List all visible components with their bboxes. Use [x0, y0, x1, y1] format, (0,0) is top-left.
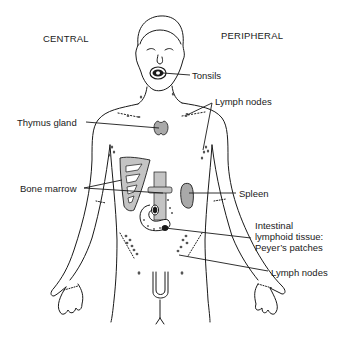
peripheral-header: PERIPHERAL: [221, 30, 283, 41]
lymphoid-organs-diagram: CENTRAL PERIPHERAL Tonsils Lymph nodes T…: [0, 0, 351, 339]
intestinal-label-line2: lymphoid tissue:: [255, 231, 323, 242]
intestinal-label-line1: Intestinal: [255, 220, 293, 231]
right-elbow-crease: [214, 199, 226, 201]
nose: [157, 55, 162, 64]
hair-line: [140, 30, 181, 44]
central-header: CENTRAL: [43, 33, 89, 44]
right-shoulder-arm: [182, 103, 285, 294]
groin-dots-right: [188, 233, 202, 256]
head-outline: [136, 16, 185, 91]
body-figure: [0, 0, 351, 339]
lymph-nodes-lower-label: Lymph nodes: [271, 267, 328, 278]
lymph-lower-leader: [179, 255, 268, 271]
lymph-upper-leader-b: [203, 103, 212, 150]
genital-inner: [156, 272, 165, 295]
intestinal-leader: [165, 228, 251, 238]
left-eye: [147, 49, 155, 51]
left-torso-side: [110, 145, 117, 322]
intestinal-label-line3: Peyer’s patches: [255, 242, 323, 253]
lymph-nodes-upper-label: Lymph nodes: [215, 96, 272, 107]
left-inner-arm: [70, 145, 110, 280]
right-inner-arm: [212, 145, 258, 280]
spleen: [181, 183, 194, 208]
left-hand: [58, 284, 82, 314]
right-hand: [255, 284, 278, 314]
bone-marrow-label: Bone marrow: [20, 183, 77, 194]
legs-divide: [156, 300, 164, 324]
right-eye: [165, 49, 173, 51]
neck-left: [138, 87, 147, 104]
tonsils-label: Tonsils: [192, 70, 221, 81]
right-wrist-crease: [258, 284, 272, 288]
spleen-label: Spleen: [239, 188, 269, 199]
tonsils-leader: [163, 73, 190, 75]
thymus-leader: [86, 122, 159, 128]
thymus-gland-label: Thymus gland: [17, 117, 77, 128]
